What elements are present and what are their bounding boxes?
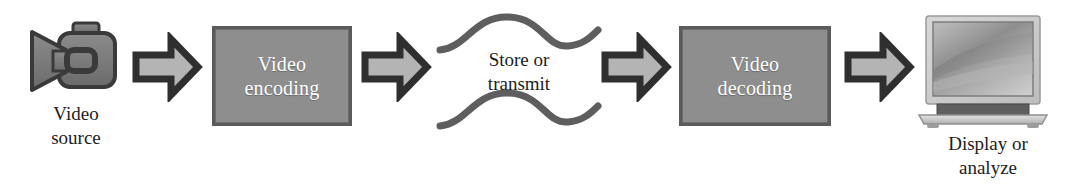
process-box-video-encoding[interactable]: Video encoding <box>212 26 352 126</box>
block-arrow-right-icon <box>843 32 915 102</box>
block-arrow-right-icon <box>600 32 672 102</box>
block-arrow-right-icon <box>360 32 432 102</box>
block-arrow-right-icon <box>131 32 203 102</box>
laptop-icon <box>915 14 1051 132</box>
store-or-transmit-label: Store or transmit <box>441 48 597 96</box>
video-decoding-label: Video decoding <box>718 52 793 101</box>
process-box-video-decoding[interactable]: Video decoding <box>679 26 831 126</box>
video-source-label: Video source <box>6 102 146 149</box>
camcorder-icon <box>26 18 124 100</box>
video-encoding-label: Video encoding <box>245 52 320 101</box>
diagram-canvas: Video source Video encoding Store or tra… <box>0 0 1071 195</box>
display-or-analyze-label: Display or analyze <box>913 132 1063 179</box>
